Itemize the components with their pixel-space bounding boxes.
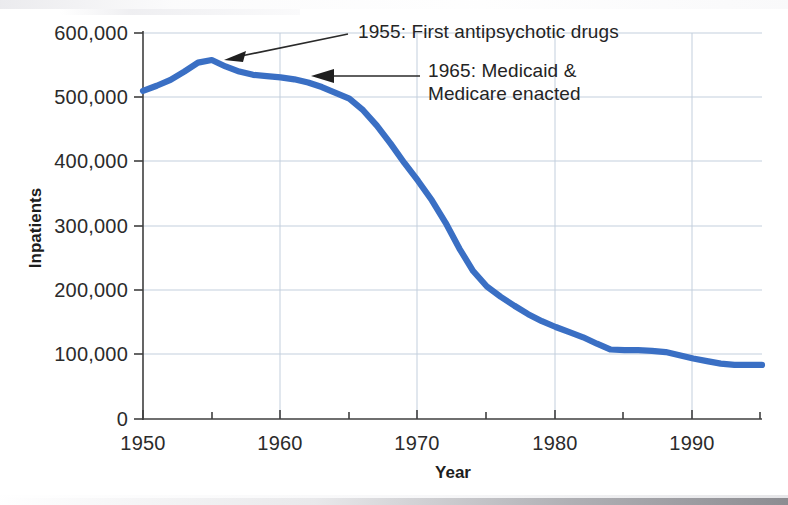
y-axis-tick-label-500000: 500,000 — [20, 86, 128, 109]
x-axis-ticks — [143, 410, 760, 419]
x-axis-tick-label-1990: 1990 — [642, 432, 742, 455]
annotation-1955-label: 1955: First antipsychotic drugs — [358, 20, 619, 43]
y-axis-title: Inpatients — [26, 168, 46, 288]
data-series-line — [143, 60, 762, 365]
x-axis-tick-label-1950: 1950 — [93, 432, 193, 455]
y-axis-tick-label-0: 0 — [20, 408, 128, 431]
y-axis-tick-label-100000: 100,000 — [20, 343, 128, 366]
annotation-arrow-1955 — [224, 34, 348, 62]
x-axis-tick-label-1960: 1960 — [230, 432, 330, 455]
chart-figure: 600,000 500,000 400,000 300,000 200,000 … — [0, 0, 788, 505]
annotation-1965-label-line2: Medicare enacted — [428, 82, 581, 105]
x-axis-tick-label-1970: 1970 — [367, 432, 467, 455]
y-axis-tick-label-600000: 600,000 — [20, 22, 128, 45]
x-axis-title: Year — [403, 463, 503, 483]
annotation-1965-label-line1: 1965: Medicaid & — [428, 59, 576, 82]
annotation-arrow-1965 — [311, 69, 420, 83]
x-axis-tick-label-1980: 1980 — [505, 432, 605, 455]
scan-artifact-bottom — [0, 498, 788, 505]
